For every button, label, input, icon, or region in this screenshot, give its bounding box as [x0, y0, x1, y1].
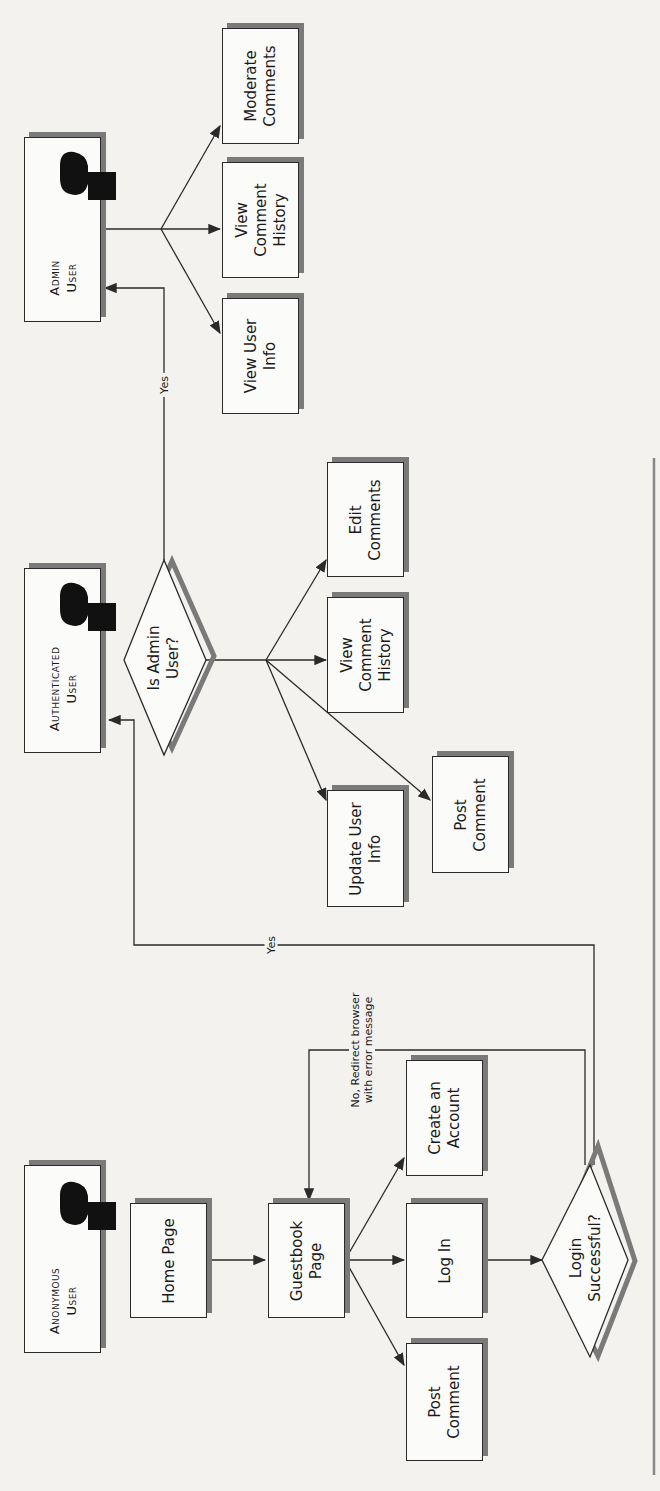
node-label: Create an Account	[426, 1081, 464, 1154]
admin-user-actor: Admin User	[24, 137, 101, 322]
node-label: View Comment History	[337, 618, 394, 692]
node-label: Guestbook Page	[288, 1220, 326, 1301]
person-silhouette-icon	[58, 579, 118, 633]
actor-label: Authenticated User	[46, 647, 80, 732]
auth-view-comment-history-node: View Comment History	[327, 597, 404, 713]
node-label: Update User Info	[347, 802, 385, 895]
node-label: Post Comment	[452, 778, 490, 852]
anon-post-comment-node: Post Comment	[406, 1343, 483, 1461]
actor-label: Admin User	[46, 260, 80, 295]
admin-yes-edge-label: Yes	[158, 373, 171, 397]
person-silhouette-icon	[58, 1178, 118, 1232]
update-user-info-node: Update User Info	[327, 790, 404, 907]
node-label: Log In	[435, 1238, 454, 1284]
node-label: Home Page	[159, 1218, 178, 1303]
login-no-edge-label: No, Redirect browser with error message	[349, 990, 375, 1111]
view-user-info-node: View User Info	[222, 298, 299, 414]
home-page-node: Home Page	[130, 1203, 207, 1318]
log-in-node: Log In	[406, 1203, 483, 1318]
person-silhouette-icon	[58, 148, 118, 202]
node-label: View User Info	[242, 319, 280, 394]
node-label: Post Comment	[426, 1365, 464, 1439]
node-label: Edit Comments	[347, 479, 385, 560]
node-label: Moderate Comments	[242, 45, 280, 126]
authenticated-user-actor: Authenticated User	[24, 568, 101, 753]
node-label: View Comment History	[232, 183, 289, 257]
edit-comments-node: Edit Comments	[327, 462, 404, 577]
guestbook-page-node: Guestbook Page	[268, 1203, 345, 1318]
login-successful-label: Login Successful?	[567, 1214, 605, 1301]
moderate-comments-node: Moderate Comments	[222, 28, 299, 144]
auth-post-comment-node: Post Comment	[432, 756, 509, 873]
create-account-node: Create an Account	[406, 1060, 483, 1176]
anonymous-user-actor: Anonymous User	[24, 1165, 101, 1353]
is-admin-label: Is Admin User?	[145, 626, 183, 691]
actor-label: Anonymous User	[46, 1268, 80, 1335]
login-yes-edge-label: Yes	[265, 933, 278, 957]
admin-view-comment-history-node: View Comment History	[222, 162, 299, 278]
